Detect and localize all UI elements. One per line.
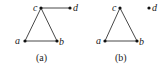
node-c bbox=[39, 6, 42, 9]
node-label-d: d bbox=[152, 2, 158, 13]
caption-b: (b) bbox=[115, 52, 127, 64]
node-label-d: d bbox=[73, 2, 79, 13]
node-d bbox=[147, 6, 150, 9]
edge-b-c bbox=[120, 8, 137, 41]
node-label-b: b bbox=[59, 36, 64, 47]
node-d bbox=[68, 6, 71, 9]
panel-a: a b c d (a) bbox=[15, 2, 79, 64]
edge-b-c bbox=[41, 8, 57, 41]
node-c bbox=[118, 6, 121, 9]
panel-b: a b c d (b) bbox=[96, 2, 158, 64]
node-label-a: a bbox=[15, 35, 20, 46]
node-label-c: c bbox=[112, 2, 117, 13]
graph-figure: a b c d (a) a b c d (b) bbox=[0, 0, 167, 77]
node-label-b: b bbox=[139, 36, 144, 47]
node-label-c: c bbox=[33, 2, 38, 13]
node-a bbox=[103, 39, 106, 42]
caption-a: (a) bbox=[36, 52, 47, 64]
node-a bbox=[23, 39, 26, 42]
node-label-a: a bbox=[96, 35, 101, 46]
